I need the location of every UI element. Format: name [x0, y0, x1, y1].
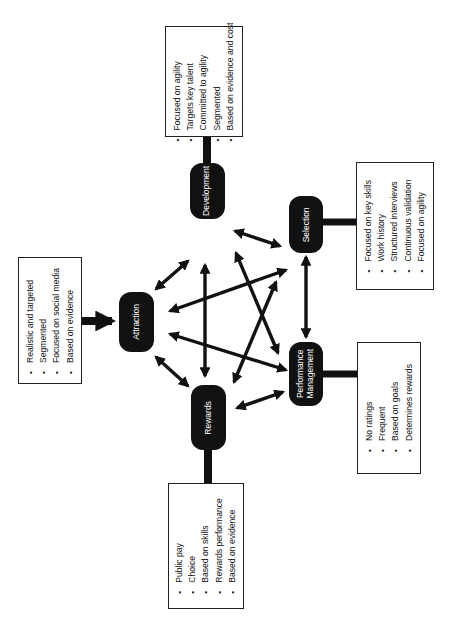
- attraction-list: Realistic and targeted Segmented Focused…: [24, 267, 77, 373]
- list-item: Based on goals: [389, 364, 402, 452]
- list-item: Determines rewards: [402, 364, 415, 452]
- arrow-attraction-selection: [170, 270, 286, 311]
- list-item: Rewards performance: [213, 498, 226, 594]
- arrow-development-performance: [236, 253, 278, 353]
- list-item: Structured interviews: [388, 179, 401, 272]
- node-rewards: Rewards: [191, 385, 226, 450]
- selection-list: Focused on key skills Work history Struc…: [362, 179, 428, 272]
- list-item: Focused on social media: [50, 267, 63, 373]
- box-attraction-content: Realistic and targeted Segmented Focused…: [24, 267, 77, 373]
- list-item: Realistic and targeted: [24, 267, 37, 373]
- node-development-label: Development: [203, 166, 213, 216]
- node-rewards-label: Rewards: [204, 401, 214, 435]
- list-item: Based on evidence and cost: [224, 22, 237, 141]
- list-item: Committed to agility: [197, 22, 210, 141]
- node-performance-label-line2: Management: [306, 349, 316, 399]
- list-item: Based on skills: [199, 498, 212, 594]
- list-item: Targets key talent: [184, 22, 197, 141]
- box-selection: Focused on key skills Work history Struc…: [356, 162, 434, 290]
- arrow-development-selection: [235, 231, 280, 246]
- list-item: Based on evidence: [226, 498, 239, 594]
- list-item: Based on evidence: [63, 267, 76, 373]
- node-selection: Selection: [289, 196, 323, 253]
- box-rewards: Public pay Choice Based on skills Reward…: [168, 483, 244, 609]
- list-item: Frequent: [376, 364, 389, 452]
- node-attraction-label: Attraction: [132, 304, 142, 340]
- box-development-content: Focused on agility Targets key talent Co…: [171, 22, 237, 141]
- list-item: Segmented: [37, 267, 50, 373]
- box-performance-content: No ratings Frequent Based on goals Deter…: [363, 364, 416, 452]
- arrow-attraction-rewards: [156, 357, 188, 386]
- list-item: Segmented: [211, 22, 224, 141]
- arrow-performance-rewards: [237, 392, 283, 408]
- arrow-attraction-development: [156, 261, 188, 289]
- development-list: Focused on agility Targets key talent Co…: [171, 22, 237, 141]
- rewards-list: Public pay Choice Based on skills Reward…: [173, 498, 239, 594]
- arrow-attraction-performance: [170, 334, 286, 370]
- list-item: No ratings: [363, 364, 376, 452]
- node-selection-label: Selection: [301, 207, 311, 242]
- list-item: Choice: [186, 498, 199, 594]
- list-item: Work history: [375, 179, 388, 272]
- box-performance-management: No ratings Frequent Based on goals Deter…: [357, 342, 421, 474]
- list-item: Continuous validation: [402, 179, 415, 272]
- box-selection-content: Focused on key skills Work history Struc…: [362, 179, 428, 272]
- node-performance-label: Performance Management: [296, 349, 316, 399]
- box-rewards-content: Public pay Choice Based on skills Reward…: [173, 498, 239, 594]
- box-development: Focused on agility Targets key talent Co…: [165, 26, 243, 137]
- node-performance-management: Performance Management: [289, 342, 323, 406]
- performance-list: No ratings Frequent Based on goals Deter…: [363, 364, 416, 452]
- list-item: Focused on key skills: [362, 179, 375, 272]
- node-development: Development: [190, 163, 225, 219]
- box-attraction: Realistic and targeted Segmented Focused…: [18, 257, 82, 384]
- list-item: Public pay: [173, 498, 186, 594]
- node-attraction: Attraction: [119, 292, 154, 352]
- list-item: Focused on agility: [415, 179, 428, 272]
- list-item: Focused on agility: [171, 22, 184, 141]
